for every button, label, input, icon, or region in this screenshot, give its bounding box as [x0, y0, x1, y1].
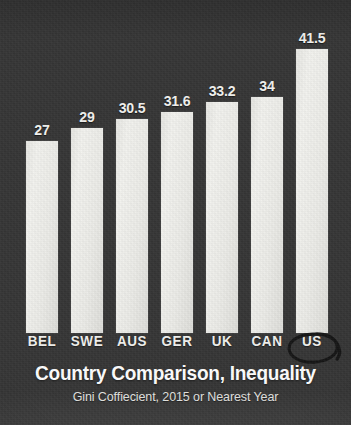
bar-value-us: 41.5	[286, 30, 339, 45]
bar-us[interactable]	[296, 49, 328, 333]
bar-aus[interactable]	[116, 119, 148, 333]
bar-value-bel: 27	[16, 122, 69, 137]
chart-title-block: Country Comparison, Inequality Gini Coff…	[0, 362, 351, 405]
bar-can[interactable]	[251, 97, 283, 333]
bar-chart-plot-area: 27 29 30.5 31.6 33.2 34 41.5	[0, 0, 351, 333]
bar-ger[interactable]	[161, 112, 193, 333]
bar-bel[interactable]	[26, 141, 58, 333]
chart-title: Country Comparison, Inequality	[12, 362, 338, 385]
chart-subtitle: Gini Coffiecient, 2015 or Nearest Year	[7, 389, 344, 405]
bar-swe[interactable]	[71, 128, 103, 333]
bar-uk[interactable]	[206, 102, 238, 333]
bar-value-can: 34	[241, 78, 294, 93]
category-label-us: US	[286, 334, 338, 349]
category-axis: BEL SWE AUS GER UK CAN US	[0, 334, 351, 360]
chart-poster: 27 29 30.5 31.6 33.2 34 41.5	[0, 0, 351, 425]
